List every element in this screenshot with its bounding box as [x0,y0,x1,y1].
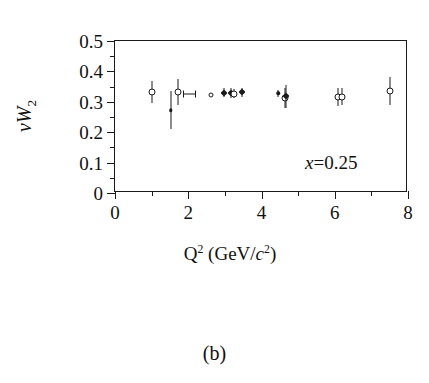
error-bar-cap-right [195,90,196,97]
y-tick-label: 0.1 [79,153,103,172]
x-tick-label: 6 [330,203,340,222]
x-axis-title-unit-open: (GeV/ [203,243,255,264]
y-tick-minor [110,147,115,148]
x-tick-label: 8 [403,203,413,222]
y-tick-minor [110,117,115,118]
x-tick-major [188,191,189,199]
y-tick-label: 0.5 [79,32,103,51]
y-tick-label: 0.3 [79,92,103,111]
y-tick-label: 0 [94,184,104,203]
marker-open-circle [386,88,393,95]
y-tick-minor [110,56,115,57]
y-tick-label: 0.4 [79,62,103,81]
y-tick-major [107,41,115,42]
y-tick-label: 0.2 [79,123,103,142]
x-tick-label: 4 [257,203,267,222]
annotation-value: 0.25 [324,152,357,173]
panel-caption: (b) [0,342,429,365]
y-tick-minor [110,178,115,179]
marker-open-circle [230,90,237,97]
plot-frame: 00.10.20.30.40.502468 [114,40,407,192]
y-tick-major [107,102,115,103]
y-axis-title: νW2 [13,100,40,132]
y-axis-title-w: W [13,107,35,124]
x-tick-major [335,191,336,199]
marker-open-circle [175,89,182,96]
y-tick-minor [110,87,115,88]
marker-filled-dot [277,92,281,96]
x-tick-minor [225,191,226,196]
error-bar-cap-left [183,90,184,97]
horizontal-error-bar [183,93,195,94]
annotation-x-value: x=0.25 [305,152,357,174]
y-tick-major [107,193,115,194]
x-tick-major [408,191,409,199]
x-axis-title-base: Q [184,243,198,264]
x-tick-major [115,191,116,199]
y-tick-major [107,163,115,164]
x-axis-title: Q2 (GeV/c2) [184,243,277,265]
x-tick-minor [371,191,372,196]
y-axis-title-nu: ν [13,123,35,132]
figure-panel: νW2 00.10.20.30.40.502468 x=0.25 Q2 (GeV… [0,0,429,383]
x-tick-major [262,191,263,199]
y-tick-major [107,132,115,133]
y-axis-title-subscript: 2 [24,100,39,107]
x-tick-label: 0 [110,203,120,222]
plot-area [115,41,406,191]
marker-open-circle [148,89,155,96]
marker-filled-dot [169,109,173,113]
x-tick-minor [152,191,153,196]
x-axis-title-unit-close: ) [270,243,276,264]
x-tick-label: 2 [184,203,194,222]
y-tick-major [107,71,115,72]
marker-open-circle [339,93,346,100]
annotation-equals: = [313,152,324,173]
marker-small-open-circle [208,93,213,98]
x-tick-minor [298,191,299,196]
marker-filled-diamond [239,89,246,96]
